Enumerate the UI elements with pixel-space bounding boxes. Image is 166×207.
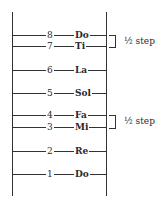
step-line: [12, 93, 107, 94]
step-line: [12, 46, 107, 47]
scale-step-6: 6 La: [12, 65, 107, 76]
half-step-label-upper: ½ step: [124, 36, 155, 47]
step-line: [12, 35, 107, 36]
solfege-syllable: Do: [74, 30, 90, 41]
step-line: [12, 127, 107, 128]
degree-number: 8: [46, 30, 54, 41]
step-line: [12, 70, 107, 71]
solfege-syllable: La: [74, 65, 88, 76]
half-step-label-lower: ½ step: [124, 116, 155, 127]
solfege-syllable: Sol: [74, 88, 92, 99]
solfege-syllable: Mi: [74, 122, 89, 133]
solfege-syllable: Ti: [74, 41, 86, 52]
scale-step-7: 7 Ti: [12, 41, 107, 52]
degree-number: 7: [46, 41, 54, 52]
degree-number: 4: [46, 110, 54, 121]
half-step-bracket-upper: [109, 35, 116, 48]
scale-step-4: 4 Fa: [12, 110, 107, 121]
degree-number: 6: [46, 65, 54, 76]
scale-step-2: 2 Re: [12, 146, 107, 157]
step-line: [12, 115, 107, 116]
degree-number: 3: [46, 122, 54, 133]
degree-number: 5: [46, 88, 54, 99]
scale-step-8: 8 Do: [12, 30, 107, 41]
solfege-syllable: Fa: [74, 110, 88, 121]
step-line: [12, 151, 107, 152]
solfege-syllable: Re: [74, 146, 89, 157]
half-step-bracket-lower: [109, 115, 116, 129]
scale-step-3: 3 Mi: [12, 122, 107, 133]
degree-number: 2: [46, 146, 54, 157]
solfege-syllable: Do: [74, 169, 90, 180]
scale-step-1: 1 Do: [12, 169, 107, 180]
scale-step-5: 5 Sol: [12, 88, 107, 99]
step-line: [12, 174, 107, 175]
degree-number: 1: [46, 169, 54, 180]
